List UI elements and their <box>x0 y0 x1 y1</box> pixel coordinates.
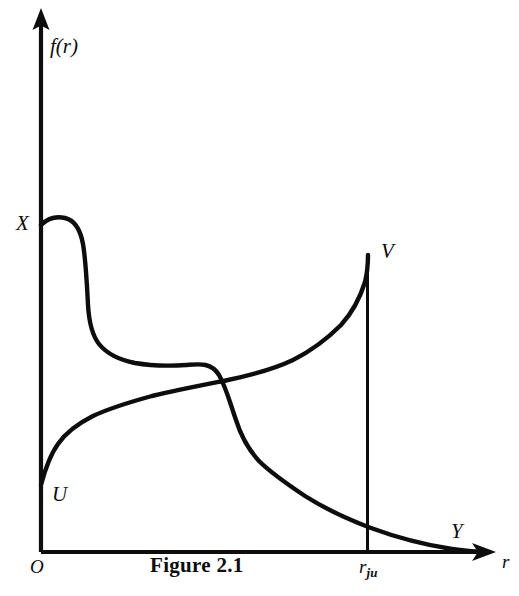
point-label-y: Y <box>451 521 463 542</box>
origin-label: O <box>30 557 44 576</box>
point-label-v: V <box>381 241 394 262</box>
x-tick-label-rju: rju <box>359 557 378 579</box>
figure-container: f(r) r X U V Y O rju Figure 2.1 <box>0 0 519 596</box>
y-axis-label: f(r) <box>50 36 78 57</box>
x-axis-label: r <box>502 552 509 571</box>
curve-uv <box>41 255 368 485</box>
figure-drawing <box>0 0 519 596</box>
curve-xy <box>41 217 487 552</box>
point-label-u: U <box>52 484 67 505</box>
x-tick-label-rju-subscript: ju <box>366 565 377 580</box>
figure-caption: Figure 2.1 <box>150 555 244 576</box>
point-label-x: X <box>16 213 29 234</box>
